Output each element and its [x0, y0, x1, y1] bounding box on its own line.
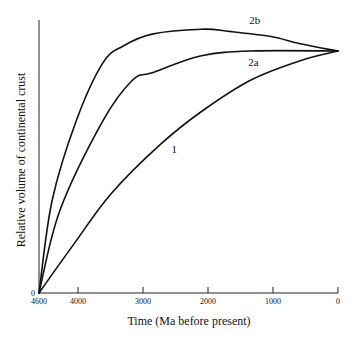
curve-label-2b: 2b — [249, 14, 261, 26]
curve-label-2a: 2a — [248, 56, 259, 68]
curve-2b — [39, 29, 338, 293]
axes: 460040003000200010000 0 Time (Ma before … — [14, 20, 340, 328]
x-tick-label: 3000 — [135, 297, 151, 306]
x-axis-title: Time (Ma before present) — [127, 314, 250, 328]
x-ticks: 460040003000200010000 — [31, 287, 340, 306]
x-tick-label: 4000 — [70, 297, 86, 306]
y-tick-label-zero: 0 — [31, 289, 35, 298]
x-tick-label: 1000 — [265, 297, 281, 306]
curve-2a — [39, 51, 338, 293]
series-group: 2b2a1 — [39, 14, 338, 293]
y-axis-title: Relative volume of continental crust — [14, 72, 28, 247]
x-tick-label: 4600 — [31, 297, 47, 306]
chart: 460040003000200010000 0 Time (Ma before … — [0, 0, 361, 339]
x-tick-label: 2000 — [200, 297, 216, 306]
curve-1 — [39, 51, 338, 293]
x-tick-label: 0 — [336, 297, 340, 306]
curve-label-1: 1 — [171, 143, 177, 155]
